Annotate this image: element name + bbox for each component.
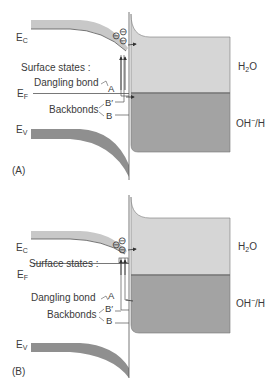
backbond-marker-b-prime: B′: [105, 304, 113, 314]
electron-icon: ⊖: [118, 245, 126, 255]
oh-region: [131, 275, 230, 333]
oh-h-label: OH−/H: [236, 119, 265, 129]
backbonds-label: Backbonds: [49, 105, 98, 115]
panel-a-graphics: [31, 12, 230, 180]
panel-a-caption: (A): [12, 166, 25, 176]
dangling-bond-marker: A: [108, 84, 114, 94]
surface-states-label: Surface states :: [29, 259, 98, 269]
h2o-region: [131, 197, 230, 275]
backbond-marker-b: B: [106, 111, 112, 121]
ev-label: EV: [16, 125, 27, 135]
backbond-marker-b-prime: B′: [105, 98, 113, 108]
h2o-region: [131, 14, 230, 93]
valence-band: [31, 343, 129, 378]
oh-h-label: OH−/H: [236, 299, 265, 309]
ef-label: EF: [17, 270, 28, 280]
dangling-bond-label: Dangling bond: [31, 293, 96, 303]
backbonds-label: Backbonds: [47, 310, 96, 320]
panel-b-graphics: [31, 195, 230, 378]
ec-label: EC: [16, 243, 28, 253]
h2o-label: H2O: [238, 62, 257, 72]
electron-icon: ⊖: [119, 36, 127, 46]
h2o-label: H2O: [238, 242, 257, 252]
ef-label: EF: [17, 89, 28, 99]
dangling-bond-marker: A: [108, 291, 114, 301]
ev-label: EV: [16, 340, 27, 350]
ec-label: EC: [16, 33, 28, 43]
surface-states-label: Surface states :: [21, 63, 90, 73]
backbond-marker-b: B: [106, 316, 112, 326]
oh-region: [131, 93, 230, 152]
panel-b-caption: (B): [12, 367, 25, 377]
valence-band: [31, 129, 129, 177]
dangling-bond-label: Dangling bond: [34, 78, 99, 88]
band-diagram-graphics: [0, 0, 279, 391]
